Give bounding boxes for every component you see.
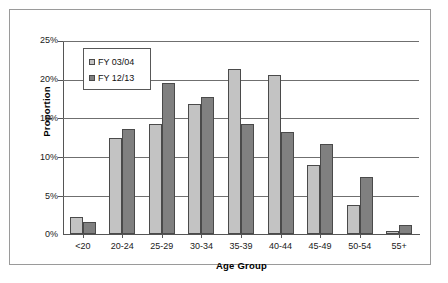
bar[interactable] [399, 225, 412, 234]
x-axis-tick [201, 234, 202, 238]
bar-group: 40-44 [261, 41, 301, 234]
bar-group-bars [221, 41, 261, 234]
bar[interactable] [109, 138, 122, 235]
bar-group-bars [379, 41, 419, 234]
legend-item: FY 12/13 [89, 70, 150, 86]
bar[interactable] [188, 104, 201, 234]
x-tick-label: 25-29 [142, 241, 182, 251]
x-axis-tick [320, 234, 321, 238]
y-tick-label: 25% [24, 36, 58, 45]
legend-item: FY 03/04 [89, 54, 150, 70]
bar-group: 35-39 [221, 41, 261, 234]
x-axis-tick [122, 234, 123, 238]
bar[interactable] [228, 69, 241, 234]
bar[interactable] [149, 124, 162, 234]
bar[interactable] [201, 97, 214, 234]
y-axis-labels: 25% 20% 15% 10% 5% 0% [20, 41, 58, 235]
x-tick-label: <20 [63, 241, 103, 251]
bar-group: 45-49 [300, 41, 340, 234]
bar-group: 50-54 [340, 41, 380, 234]
y-tick-label: 0% [24, 230, 58, 239]
bar[interactable] [268, 75, 281, 234]
bar[interactable] [162, 83, 175, 234]
x-tick-label: 20-24 [103, 241, 143, 251]
legend-label: FY 03/04 [98, 57, 134, 67]
y-tick-label: 10% [24, 153, 58, 162]
bar[interactable] [360, 177, 373, 234]
chart-frame: Proportion 25% 20% 15% 10% 5% 0% <2020-2… [9, 9, 431, 265]
x-axis-title: Age Group [63, 260, 420, 271]
chart-legend: FY 03/04 FY 12/13 [83, 48, 151, 90]
x-axis-tick [399, 234, 400, 238]
x-tick-label: 30-34 [182, 241, 222, 251]
bar-group-bars [340, 41, 380, 234]
bar[interactable] [83, 222, 96, 234]
bar[interactable] [386, 231, 399, 234]
legend-swatch-icon [89, 75, 95, 81]
x-tick-label: 50-54 [340, 241, 380, 251]
legend-label: FY 12/13 [98, 73, 134, 83]
x-tick-label: 35-39 [221, 241, 261, 251]
x-axis-tick [360, 234, 361, 238]
bar[interactable] [307, 165, 320, 234]
x-axis-tick [83, 234, 84, 238]
bar[interactable] [320, 144, 333, 234]
bar[interactable] [70, 217, 83, 234]
x-tick-label: 55+ [379, 241, 419, 251]
x-axis-tick [241, 234, 242, 238]
legend-swatch-icon [89, 59, 95, 65]
x-tick-label: 45-49 [300, 241, 340, 251]
bar-group-bars [300, 41, 340, 234]
y-tick-label: 15% [24, 114, 58, 123]
bar-group: 55+ [379, 41, 419, 234]
x-axis-tick [162, 234, 163, 238]
bar-group: 30-34 [182, 41, 222, 234]
x-tick-label: 40-44 [261, 241, 301, 251]
bar-group-bars [261, 41, 301, 234]
bar-group-bars [182, 41, 222, 234]
bar[interactable] [347, 205, 360, 234]
y-tick-label: 20% [24, 75, 58, 84]
y-tick-label: 5% [24, 192, 58, 201]
x-axis-tick [281, 234, 282, 238]
bar[interactable] [241, 124, 254, 234]
bar[interactable] [122, 129, 135, 234]
bar[interactable] [281, 132, 294, 234]
